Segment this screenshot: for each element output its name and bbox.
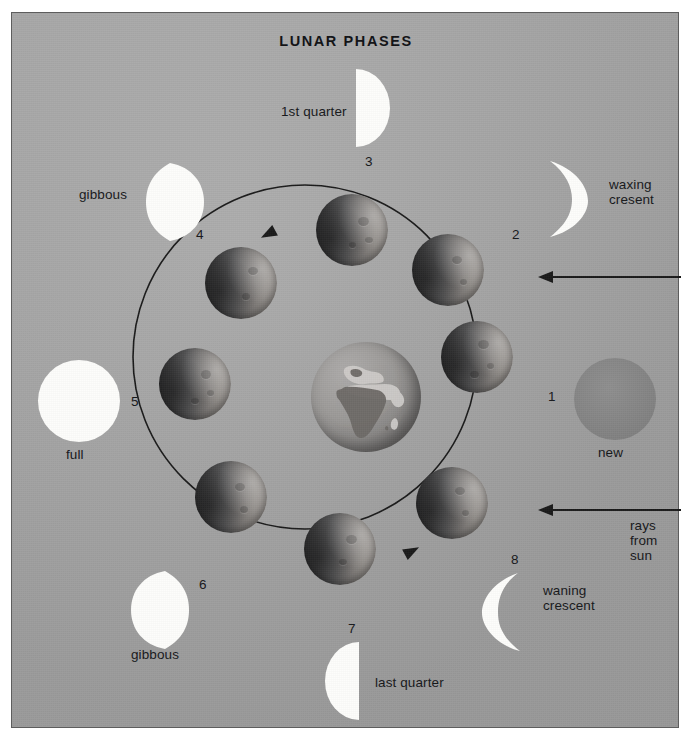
phase-label-full: full [66,447,84,462]
orbit-moon-5 [159,348,231,420]
orbit-moon-2 [412,234,484,306]
phase-label-waning-crescent: waning crescent [543,583,595,613]
sun-rays-label: rays from sun [630,518,657,563]
phase-number-5: 5 [131,395,139,409]
phase-label-gibbous-upper: gibbous [79,187,127,202]
phase-shape-full [38,360,120,442]
sun-ray-arrowhead-bottom [538,504,553,516]
orbit-direction-arrow-top [258,225,278,243]
phase-label-waxing-crescent: waxing cresent [609,177,654,207]
orbit-moon-8 [416,467,488,539]
sun-ray-line-top [553,276,681,278]
diagram-frame: LUNAR PHASES [11,12,679,728]
page-title: LUNAR PHASES [12,33,680,49]
phase-number-8: 8 [511,553,519,567]
phase-shape-waxing-crescent [540,157,592,241]
lunar-phases-diagram: LUNAR PHASES [0,0,700,754]
phase-number-7: 7 [348,622,356,636]
orbit-direction-arrow-bottom [402,542,422,560]
orbit-moon-7 [304,513,376,585]
phase-shape-waning-crescent [478,569,530,655]
phase-number-3: 3 [365,155,373,169]
phase-number-1: 1 [548,390,556,404]
phase-shape-last-quarter [325,642,359,720]
phase-label-last-quarter: last quarter [375,675,444,690]
orbit-moon-1 [441,321,513,393]
phase-label-1st-quarter: 1st quarter [281,104,347,119]
phase-shape-new [574,358,656,440]
phase-label-new: new [598,445,623,460]
phase-number-4: 4 [196,228,204,242]
earth [311,342,421,452]
orbit-moon-6 [195,461,267,533]
sun-ray-line-bottom [553,509,681,511]
orbit-moon-3 [316,194,388,266]
sun-ray-arrowhead-top [538,271,553,283]
phase-number-6: 6 [199,578,207,592]
phase-number-2: 2 [512,228,520,242]
phase-label-gibbous-lower: gibbous [131,647,179,662]
earth-continents-icon [311,342,421,452]
phase-shape-1st-quarter [356,69,390,147]
phase-shape-gibbous-lower [129,569,201,651]
orbit-moon-4 [205,247,277,319]
